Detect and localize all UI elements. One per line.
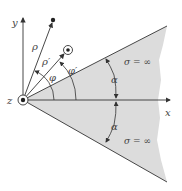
wedge-diagram: y x z ρ ρ′ φ φ′ α α σ = ∞ σ = ∞	[0, 0, 182, 191]
rho-prime-label: ρ′	[41, 56, 51, 67]
rho-point	[51, 18, 55, 22]
alpha-upper-label: α	[111, 74, 118, 85]
upper-conductivity-label: σ = ∞	[124, 57, 151, 67]
conducting-wedge-region	[23, 26, 167, 182]
lower-conductivity-label: σ = ∞	[124, 136, 151, 146]
phi-label: φ	[49, 72, 56, 83]
rho-prime-source-dot	[66, 48, 70, 52]
rho-label: ρ	[31, 41, 38, 52]
phi-prime-label: φ′	[68, 65, 78, 76]
alpha-lower-label: α	[111, 121, 118, 132]
origin-dot	[21, 98, 25, 102]
y-axis-label: y	[11, 17, 18, 28]
z-axis-label: z	[6, 95, 13, 106]
x-axis-label: x	[165, 107, 171, 118]
